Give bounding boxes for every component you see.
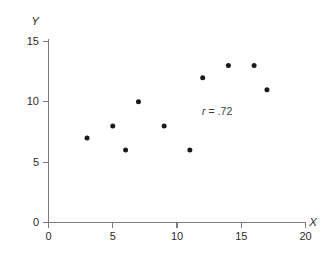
x-tick-label-20: 20 xyxy=(299,230,311,242)
x-tick-label-0: 0 xyxy=(45,230,51,242)
data-point xyxy=(110,123,115,128)
data-point xyxy=(226,63,231,68)
y-tick-label-5: 5 xyxy=(33,156,39,168)
data-point xyxy=(187,148,192,153)
y-tick-label-0: 0 xyxy=(33,216,39,228)
data-point xyxy=(136,99,141,104)
x-tick-label-10: 10 xyxy=(171,230,183,242)
data-points-layer xyxy=(85,63,270,152)
correlation-operator: = xyxy=(209,105,215,117)
data-point xyxy=(162,123,167,128)
x-tick-label-15: 15 xyxy=(235,230,247,242)
y-axis-title: Y xyxy=(31,15,40,27)
scatter-plot-figure: 15 10 5 0 0 5 10 15 20 Y X r=.72 xyxy=(0,0,328,261)
data-point xyxy=(200,75,205,80)
y-tick-label-15: 15 xyxy=(27,35,39,47)
x-axis-ticks xyxy=(49,223,306,229)
chart-canvas: 15 10 5 0 0 5 10 15 20 Y X r=.72 xyxy=(0,0,328,261)
data-point xyxy=(264,87,269,92)
y-axis-ticks xyxy=(43,42,49,223)
data-point xyxy=(252,63,257,68)
correlation-symbol: r xyxy=(202,105,206,117)
data-point xyxy=(123,148,128,153)
y-tick-label-10: 10 xyxy=(27,95,39,107)
x-axis-tick-labels: 0 5 10 15 20 xyxy=(45,230,311,242)
data-point xyxy=(85,135,90,140)
correlation-value: .72 xyxy=(218,105,233,117)
y-axis-tick-labels: 15 10 5 0 xyxy=(27,35,39,228)
correlation-annotation: r=.72 xyxy=(202,105,232,117)
x-axis-title: X xyxy=(308,216,318,228)
x-tick-label-5: 5 xyxy=(110,230,116,242)
